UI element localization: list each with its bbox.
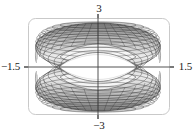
parametric-surface-plot: [0, 0, 194, 134]
axis-label-left: −1.5: [1, 61, 20, 72]
axis-label-bottom: −3: [0, 120, 194, 131]
axis-label-top: 3: [0, 3, 194, 14]
plot-figure: 3 −3 −1.5 1.5: [0, 0, 194, 134]
axis-label-right: 1.5: [179, 61, 192, 72]
